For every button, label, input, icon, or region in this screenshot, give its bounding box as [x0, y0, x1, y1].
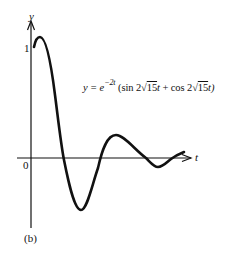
y-axis-label: y [29, 11, 34, 22]
plot-area [0, 0, 226, 257]
x-axis-label: t [195, 152, 198, 163]
panel-label: (b) [24, 233, 37, 244]
eq-plus: + cos 2 [160, 82, 192, 93]
origin-label: 0 [23, 160, 29, 171]
damped-oscillation-curve [34, 37, 184, 210]
eq-exponent: −2t [104, 78, 115, 87]
y-tick-label-1: 1 [24, 43, 30, 54]
eq-sqrt2: 15 [198, 82, 208, 93]
eq-sqrt1: 15 [147, 82, 157, 93]
eq-t2: t) [208, 82, 214, 93]
eq-body-open: (sin 2 [116, 82, 142, 93]
eq-prefix: y = e [83, 82, 104, 93]
function-annotation: y = e−2t (sin 2√15t + cos 2√15t) [83, 79, 214, 93]
